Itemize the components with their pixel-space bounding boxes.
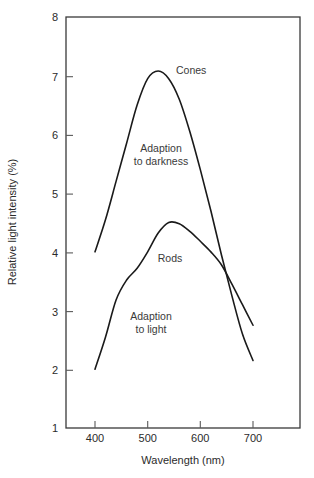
y-tick-label-3: 3 <box>52 306 58 318</box>
y-tick-label-7: 7 <box>52 71 58 83</box>
y-tick-label-2: 2 <box>52 364 58 376</box>
curve-rods <box>95 222 253 370</box>
x-tick-label-400: 400 <box>86 432 104 444</box>
curve-cones <box>95 71 253 360</box>
plot-frame <box>66 17 300 428</box>
x-axis-tick-labels: 400 500 600 700 <box>86 432 262 444</box>
label-adaption-light-line2: to light <box>136 323 167 335</box>
x-tick-label-600: 600 <box>191 432 209 444</box>
label-adaption-darkness-line2: to darkness <box>134 155 188 167</box>
y-axis-tick-labels: 8 7 6 5 4 3 2 1 <box>52 11 58 434</box>
y-tick-label-6: 6 <box>52 129 58 141</box>
label-adaption-darkness-line1: Adaption <box>140 142 182 154</box>
y-tick-label-4: 4 <box>52 247 58 259</box>
x-tick-label-700: 700 <box>244 432 262 444</box>
y-tick-label-5: 5 <box>52 188 58 200</box>
y-axis-ticks <box>66 77 73 371</box>
label-rods: Rods <box>158 252 183 264</box>
y-tick-label-1: 1 <box>52 422 58 434</box>
chart-figure: 8 7 6 5 4 3 2 1 400 500 600 700 Waveleng… <box>0 0 314 478</box>
y-tick-label-8: 8 <box>52 11 58 23</box>
y-axis-title: Relative light intensity (%) <box>6 159 18 286</box>
x-axis-ticks <box>95 421 253 428</box>
spectral-sensitivity-chart: 8 7 6 5 4 3 2 1 400 500 600 700 Waveleng… <box>0 0 314 478</box>
label-cones: Cones <box>176 64 206 76</box>
x-tick-label-500: 500 <box>139 432 157 444</box>
label-adaption-light-line1: Adaption <box>130 310 172 322</box>
x-axis-title: Wavelength (nm) <box>141 454 224 466</box>
